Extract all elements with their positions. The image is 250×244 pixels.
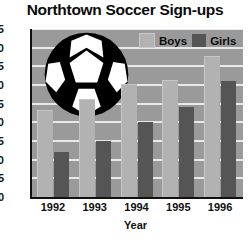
legend: Boys Girls (136, 32, 239, 49)
y-axis-label: 15 (0, 135, 4, 147)
bar-girls-1996 (221, 81, 236, 197)
y-axis-label: 20 (0, 116, 4, 128)
bar-girls-1994 (138, 122, 153, 197)
bar-girls-1993 (96, 141, 111, 197)
x-axis-title: Year (30, 219, 241, 231)
x-axis-label: 1992 (41, 201, 65, 213)
x-axis-label: 1996 (208, 201, 232, 213)
y-axis-label: 25 (0, 98, 4, 110)
x-axis-label: 1994 (124, 201, 148, 213)
y-axis-label: 5 (0, 172, 4, 184)
legend-item-girls: Girls (192, 34, 236, 47)
legend-label-boys: Boys (159, 35, 187, 47)
y-axis-label: 35 (0, 60, 4, 72)
y-axis-label: 40 (0, 42, 4, 54)
bar-girls-1995 (179, 107, 194, 197)
x-axis-label: 1993 (82, 201, 106, 213)
legend-swatch-boys-icon (139, 33, 155, 48)
plot-inner: Boys Girls (32, 29, 243, 197)
bar-boys-1996 (204, 56, 220, 197)
chart-title: Northtown Soccer Sign-ups (0, 1, 250, 19)
bar-boys-1992 (37, 110, 53, 197)
bar-boys-1995 (162, 80, 178, 197)
bar-boys-1993 (79, 99, 95, 197)
bar-boys-1994 (121, 84, 137, 197)
x-axis-label: 1995 (166, 201, 190, 213)
y-axis-label: 30 (0, 79, 4, 91)
y-axis-label: 10 (0, 154, 4, 166)
x-axis-ticks: 19921993199419951996 (32, 201, 241, 217)
legend-swatch-girls-icon (192, 34, 206, 47)
legend-label-girls: Girls (210, 35, 236, 47)
bar-girls-1992 (54, 152, 69, 197)
y-axis-label: 45 (0, 23, 4, 35)
legend-item-boys: Boys (139, 33, 187, 48)
plot-area: Boys Girls (30, 29, 243, 199)
chart-container: Northtown Soccer Sign-ups (0, 0, 250, 244)
y-axis-label: 0 (0, 191, 4, 203)
